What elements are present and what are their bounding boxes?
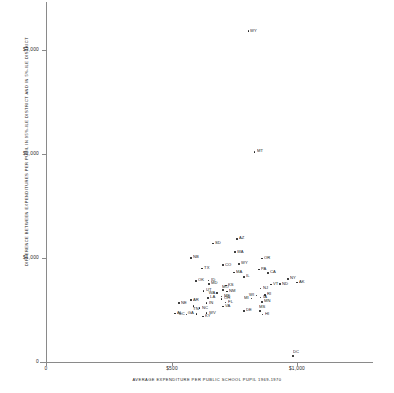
data-point-label: MT xyxy=(257,149,263,154)
data-point-marker xyxy=(207,297,209,299)
data-point-label: GA xyxy=(188,311,194,316)
x-tick-label: 0 xyxy=(19,366,73,371)
data-point-label: WA xyxy=(237,249,244,254)
data-point-label: VT xyxy=(273,281,279,286)
data-point-marker xyxy=(256,295,258,297)
data-point-label: ND xyxy=(282,281,288,286)
data-point-marker xyxy=(243,310,245,312)
data-point-label: MN xyxy=(264,299,271,304)
x-tick-label: $500 xyxy=(145,366,199,371)
data-point-marker xyxy=(216,292,218,294)
data-point-marker xyxy=(195,280,197,282)
data-point-label: IL xyxy=(246,274,250,279)
data-point-label: SD xyxy=(215,240,221,245)
data-point-marker xyxy=(226,291,228,293)
data-point-marker xyxy=(236,238,238,240)
data-point-label: MI xyxy=(244,295,249,300)
data-point-label: WY xyxy=(241,261,248,266)
data-point-marker xyxy=(178,302,180,304)
data-point-marker xyxy=(258,269,260,271)
data-point-marker xyxy=(243,276,245,278)
y-tick-label: $2,000 xyxy=(4,151,39,156)
data-point-marker xyxy=(260,288,262,290)
data-point-marker xyxy=(203,290,205,292)
y-tick-label: 0 xyxy=(4,359,39,364)
data-point-label: CO xyxy=(225,262,231,267)
data-point-marker xyxy=(296,282,298,284)
y-tick-label: $3,000 xyxy=(4,47,39,52)
y-axis-title: DIFFERENCE BETWEEN EXPENDITURES PER PUPI… xyxy=(24,58,29,266)
data-point-label: OK xyxy=(198,278,204,283)
y-tick-mark xyxy=(42,154,46,155)
data-point-label: IN xyxy=(209,300,213,305)
data-point-marker xyxy=(206,302,208,304)
data-point-label: WY xyxy=(250,28,257,33)
data-point-marker xyxy=(196,313,198,315)
data-point-label: VA xyxy=(225,303,230,308)
y-tick-mark xyxy=(42,50,46,51)
data-point-marker xyxy=(270,284,272,286)
scatter-plot-area: 0$1,000$2,000$3,000 0$500$1,000 WYMTAZSD… xyxy=(0,0,394,393)
data-point-marker xyxy=(201,268,203,270)
data-point-label: DE xyxy=(246,308,252,313)
y-tick-label: $1,000 xyxy=(4,255,39,260)
data-point-label: AZ xyxy=(239,236,245,241)
data-point-marker xyxy=(267,272,269,274)
data-point-label: SC xyxy=(178,312,184,317)
data-point-marker xyxy=(287,278,289,280)
data-point-label: NE xyxy=(181,300,187,305)
data-point-marker xyxy=(212,243,214,245)
data-point-label: WI xyxy=(249,292,254,297)
data-point-marker xyxy=(238,263,240,265)
data-point-label: CA xyxy=(270,270,276,275)
data-point-marker xyxy=(190,299,192,301)
data-point-marker xyxy=(292,355,294,357)
data-point-label: NC xyxy=(202,305,208,310)
data-point-label: KY xyxy=(205,313,211,318)
data-point-label: PA xyxy=(261,266,266,271)
data-point-marker xyxy=(208,283,210,285)
data-point-marker xyxy=(279,283,281,285)
data-point-label: DC xyxy=(293,350,299,355)
data-point-label: MD xyxy=(211,281,218,286)
data-point-label: NB xyxy=(193,255,199,260)
data-point-label: AK xyxy=(299,279,305,284)
data-point-marker xyxy=(222,264,224,266)
x-tick-label: $1,000 xyxy=(270,366,324,371)
data-point-marker xyxy=(208,280,210,282)
data-point-label: RI xyxy=(267,292,271,297)
data-point-marker xyxy=(260,297,262,299)
y-tick-mark xyxy=(42,258,46,259)
data-point-marker xyxy=(261,258,263,260)
data-point-marker xyxy=(261,301,263,303)
data-point-marker xyxy=(199,307,201,309)
data-point-label: TX xyxy=(204,265,210,270)
data-point-marker xyxy=(221,298,223,300)
data-point-label: NY xyxy=(290,276,296,281)
data-point-marker xyxy=(222,306,224,308)
data-point-marker xyxy=(254,151,256,153)
data-point-marker xyxy=(234,251,236,253)
data-point-marker xyxy=(248,30,250,32)
data-point-marker xyxy=(222,289,224,291)
x-axis-title: AVERAGE EXPENDITURE PER PUBLIC SCHOOL PU… xyxy=(0,377,394,382)
data-point-marker xyxy=(262,314,264,316)
data-point-label: AR xyxy=(193,297,199,302)
data-point-label: OR xyxy=(264,255,270,260)
data-point-label: MS xyxy=(259,305,265,310)
data-point-label: HI xyxy=(265,312,269,317)
data-point-marker xyxy=(259,310,261,312)
data-point-marker xyxy=(190,257,192,259)
chart-page: 0$1,000$2,000$3,000 0$500$1,000 WYMTAZSD… xyxy=(0,0,394,393)
data-point-marker xyxy=(221,296,223,298)
data-point-label: MA xyxy=(236,269,242,274)
data-point-marker xyxy=(202,316,204,318)
data-point-label: NJ xyxy=(263,286,268,291)
y-axis-line xyxy=(46,2,47,363)
data-point-marker xyxy=(233,272,235,274)
x-axis-line xyxy=(40,362,373,363)
data-point-marker xyxy=(251,298,253,300)
data-point-label: LA xyxy=(210,295,215,300)
data-point-marker xyxy=(174,313,176,315)
